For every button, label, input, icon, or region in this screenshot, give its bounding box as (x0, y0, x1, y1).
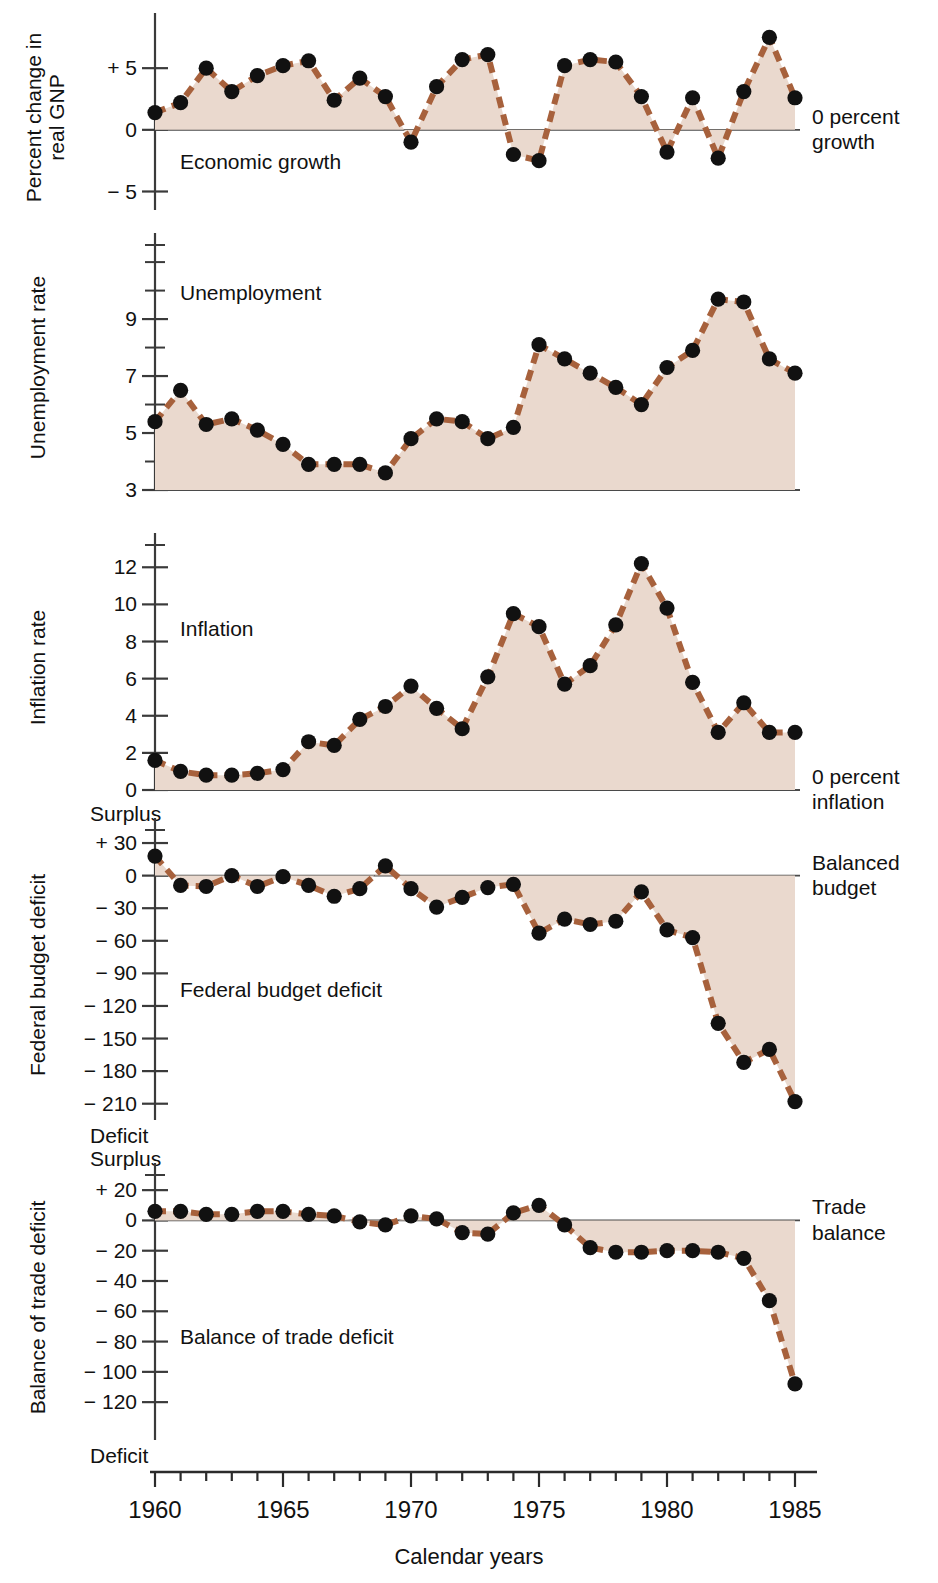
tick-label-unemployment-0: 9 (125, 307, 137, 331)
series-caption-balance-of-trade-deficit: Balance of trade deficit (180, 1325, 394, 1349)
deficit-word-balance-of-trade-deficit: Deficit (90, 1444, 148, 1468)
tick-label-federal-budget-deficit-3: − 60 (96, 929, 137, 953)
tick-label-balance-of-trade-deficit-4: − 60 (96, 1299, 137, 1323)
tick-label-balance-of-trade-deficit-7: − 120 (84, 1390, 137, 1414)
tick-label-balance-of-trade-deficit-0: + 20 (96, 1178, 137, 1202)
tick-label-federal-budget-deficit-4: − 90 (96, 961, 137, 985)
tick-label-balance-of-trade-deficit-5: − 80 (96, 1330, 137, 1354)
plot-area-unemployment (0, 0, 938, 1583)
tick-label-unemployment-2: 5 (125, 421, 137, 445)
plot-area-inflation (0, 0, 938, 1583)
tick-label-balance-of-trade-deficit-6: − 100 (84, 1360, 137, 1384)
tick-label-economic-growth-2: − 5 (107, 180, 137, 204)
axis-title-inflation: Inflation rate (26, 545, 50, 790)
tick-label-unemployment-1: 7 (125, 364, 137, 388)
surplus-word-balance-of-trade-deficit: Surplus (90, 1147, 161, 1171)
tick-label-federal-budget-deficit-8: − 210 (84, 1092, 137, 1116)
economic-indicators-figure: Percent change in real GNP+ 50− 5Economi… (0, 0, 938, 1583)
axis-title-balance-of-trade-deficit: Balance of trade deficit (26, 1175, 50, 1440)
baseline-note-inflation: 0 percent inflation (812, 764, 900, 814)
tick-label-inflation-3: 6 (125, 667, 137, 691)
baseline-note-economic-growth: 0 percent growth (812, 104, 900, 154)
tick-label-inflation-1: 10 (114, 592, 137, 616)
axis-title-economic-growth: Percent change in real GNP (22, 25, 68, 210)
tick-label-federal-budget-deficit-7: − 180 (84, 1059, 137, 1083)
x-tick-label-1980: 1980 (640, 1496, 693, 1524)
tick-label-inflation-0: 12 (114, 555, 137, 579)
tick-label-balance-of-trade-deficit-2: − 20 (96, 1239, 137, 1263)
tick-label-federal-budget-deficit-1: 0 (125, 864, 137, 888)
x-axis-title: Calendar years (0, 1544, 938, 1570)
plot-area-balance-of-trade-deficit (0, 0, 938, 1583)
x-axis (0, 0, 938, 1583)
tick-label-inflation-2: 8 (125, 630, 137, 654)
deficit-word-federal-budget-deficit: Deficit (90, 1124, 148, 1148)
series-caption-unemployment: Unemployment (180, 281, 321, 305)
tick-label-federal-budget-deficit-6: − 150 (84, 1027, 137, 1051)
series-caption-inflation: Inflation (180, 617, 254, 641)
tick-label-economic-growth-1: 0 (125, 118, 137, 142)
x-tick-label-1970: 1970 (384, 1496, 437, 1524)
tick-label-unemployment-3: 3 (125, 478, 137, 502)
tick-label-federal-budget-deficit-5: − 120 (84, 994, 137, 1018)
tick-label-inflation-4: 4 (125, 704, 137, 728)
x-tick-label-1985: 1985 (768, 1496, 821, 1524)
x-tick-label-1975: 1975 (512, 1496, 565, 1524)
plot-area-economic-growth (0, 0, 938, 1583)
baseline-note-balance-of-trade-deficit: Trade balance (812, 1194, 886, 1244)
baseline-note-federal-budget-deficit: Balanced budget (812, 850, 900, 900)
x-tick-label-1965: 1965 (256, 1496, 309, 1524)
x-tick-label-1960: 1960 (128, 1496, 181, 1524)
tick-label-balance-of-trade-deficit-1: 0 (125, 1208, 137, 1232)
surplus-word-federal-budget-deficit: Surplus (90, 802, 161, 826)
tick-label-inflation-6: 0 (125, 778, 137, 802)
series-caption-federal-budget-deficit: Federal budget deficit (180, 978, 382, 1002)
tick-label-federal-budget-deficit-2: − 30 (96, 896, 137, 920)
series-caption-economic-growth: Economic growth (180, 150, 341, 174)
tick-label-economic-growth-0: + 5 (107, 56, 137, 80)
axis-title-federal-budget-deficit: Federal budget deficit (26, 830, 50, 1120)
tick-label-inflation-5: 2 (125, 741, 137, 765)
tick-label-balance-of-trade-deficit-3: − 40 (96, 1269, 137, 1293)
tick-label-federal-budget-deficit-0: + 30 (96, 831, 137, 855)
axis-title-unemployment: Unemployment rate (26, 245, 50, 490)
plot-area-federal-budget-deficit (0, 0, 938, 1583)
